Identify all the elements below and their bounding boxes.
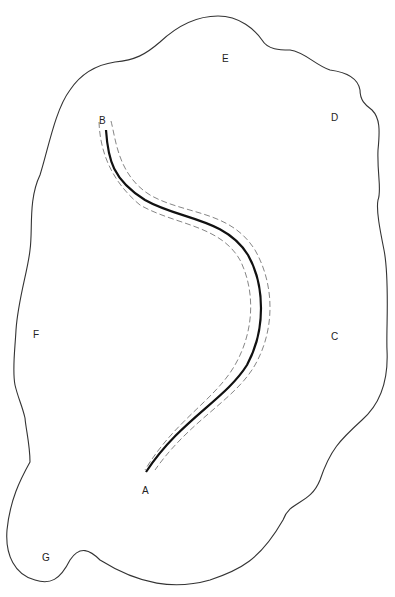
label-g: G <box>42 552 50 563</box>
diagram-canvas: B A C D E F G <box>0 0 395 597</box>
region-boundary <box>7 16 388 585</box>
label-b: B <box>99 115 106 126</box>
label-f: F <box>33 329 39 340</box>
label-e: E <box>222 53 229 64</box>
label-c: C <box>331 331 338 342</box>
label-a: A <box>142 485 149 496</box>
label-d: D <box>331 112 338 123</box>
buffer-outer-line <box>111 121 270 470</box>
buffer-inner-line <box>99 122 251 470</box>
route-path <box>106 130 261 472</box>
region-diagram: B A C D E F G <box>0 0 395 597</box>
